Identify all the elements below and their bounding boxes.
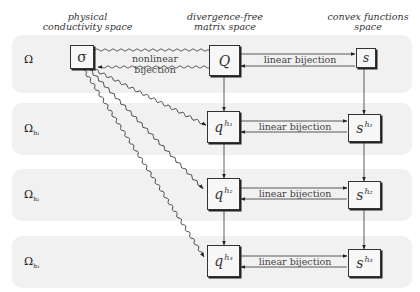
- node-s-h3-sup: h₃: [364, 255, 372, 264]
- edge-label-linear-3: linear bijection: [250, 256, 340, 267]
- node-s-h2: sh₂: [348, 181, 381, 209]
- node-q-h1-sup: h₁: [224, 119, 232, 128]
- node-Q: Q: [209, 45, 240, 76]
- node-s-h3-base: s: [356, 255, 363, 271]
- node-s-h1: sh₁: [348, 114, 381, 142]
- edge-label-nonlinear: nonlinear bijection: [110, 53, 200, 75]
- node-q-h3-base: q: [214, 253, 223, 269]
- node-s-h3: sh₃: [348, 249, 381, 277]
- wavy-arrow-sigma-q3: [83, 69, 205, 257]
- node-s-h1-base: s: [356, 120, 363, 136]
- nonlinear-arrow-forward: [95, 49, 213, 52]
- node-s-h2-base: s: [356, 187, 363, 203]
- node-q-h1: qh₁: [207, 111, 240, 143]
- node-s-h2-sup: h₂: [364, 187, 372, 196]
- node-sigma: σ: [70, 45, 94, 69]
- node-q-h3-sup: h₃: [224, 253, 232, 262]
- node-s: s: [356, 48, 376, 68]
- node-Q-label: Q: [219, 53, 230, 69]
- node-s-label: s: [363, 51, 369, 65]
- edge-label-linear-0: linear bijection: [255, 54, 345, 65]
- wavy-arrow-sigma-q2: [89, 69, 204, 189]
- wavy-arrow-sigma-q1: [94, 69, 206, 126]
- edge-label-linear-1: linear bijection: [250, 121, 340, 132]
- node-q-h3: qh₃: [207, 245, 240, 277]
- node-q-h2-base: q: [214, 186, 223, 202]
- node-q-h1-base: q: [214, 119, 223, 135]
- node-s-h1-sup: h₁: [364, 120, 372, 129]
- edge-label-linear-2: linear bijection: [250, 188, 340, 199]
- node-q-h2-sup: h₂: [224, 186, 232, 195]
- node-sigma-label: σ: [77, 49, 87, 65]
- node-q-h2: qh₂: [207, 178, 240, 210]
